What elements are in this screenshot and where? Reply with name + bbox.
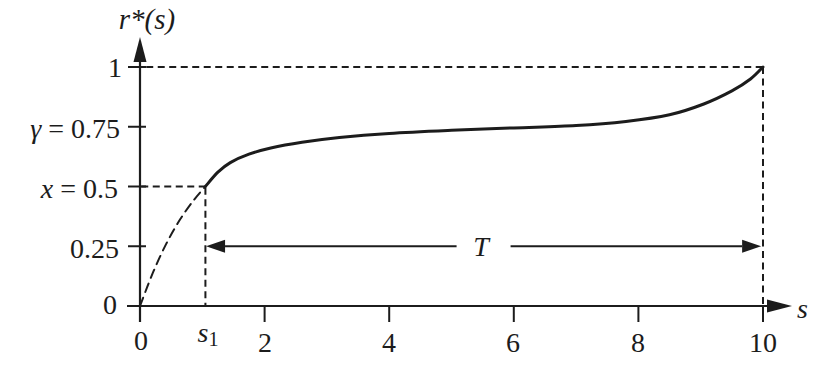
y-tick-label-0: 0 — [103, 291, 117, 319]
s1-subscript: 1 — [208, 328, 218, 350]
x-tick-label-8: 8 — [631, 329, 645, 357]
y-tick-0.5-value: = 0.5 — [53, 173, 118, 204]
x-tick-label-6: 6 — [506, 329, 520, 357]
function-plot-figure: r*(s) s 1 γ = 0.75 x = 0.5 0.25 0 0 s1 2… — [0, 0, 839, 375]
x-axis-arrowhead — [767, 300, 792, 313]
y-axis-arrowhead — [134, 37, 147, 62]
duration-T-label: T — [473, 233, 489, 261]
T-arrow-head-right — [742, 240, 761, 253]
x-axis-title: s — [797, 295, 808, 323]
T-arrow-head-left — [206, 240, 225, 253]
y-tick-label-0.5: x = 0.5 — [41, 175, 118, 203]
y-tick-label-0.25: 0.25 — [70, 235, 119, 263]
y-tick-label-1: 1 — [108, 54, 122, 82]
gamma-symbol: γ — [30, 113, 41, 144]
x-tick-label-0: 0 — [134, 327, 148, 355]
s1-base: s — [198, 317, 209, 348]
curve-r-star-before-s1 — [140, 187, 205, 307]
x-tick-label-10: 10 — [749, 329, 777, 357]
x-symbol: x — [41, 173, 53, 204]
plot-canvas — [0, 0, 839, 375]
y-tick-label-0.75: γ = 0.75 — [30, 115, 120, 143]
x-tick-label-2: 2 — [258, 329, 272, 357]
x-tick-label-4: 4 — [382, 329, 396, 357]
y-tick-0.75-value: = 0.75 — [41, 113, 120, 144]
x-tick-label-s1: s1 — [198, 319, 219, 347]
y-axis-title: r*(s) — [119, 5, 175, 34]
curve-r-star-after-s1 — [205, 67, 763, 187]
